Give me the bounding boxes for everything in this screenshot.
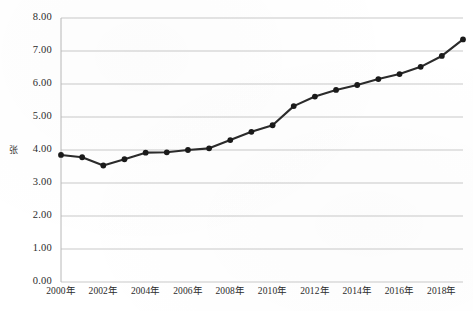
x-tick-label: 2002年 bbox=[89, 283, 119, 297]
data-point bbox=[206, 145, 212, 151]
data-line bbox=[61, 39, 463, 165]
data-point bbox=[79, 154, 85, 160]
data-point bbox=[397, 71, 403, 77]
x-tick-label: 2008年 bbox=[216, 283, 246, 297]
data-point bbox=[375, 76, 381, 82]
data-point bbox=[227, 137, 233, 143]
data-point bbox=[164, 149, 170, 155]
data-point bbox=[291, 103, 297, 109]
data-point bbox=[100, 163, 106, 169]
data-point bbox=[312, 94, 318, 100]
data-point bbox=[143, 150, 149, 156]
x-tick-label: 2004年 bbox=[131, 283, 161, 297]
data-point bbox=[58, 152, 64, 158]
data-point bbox=[122, 156, 128, 162]
x-tick-label: 2006年 bbox=[173, 283, 203, 297]
data-point bbox=[354, 82, 360, 88]
gridlines bbox=[61, 18, 463, 282]
data-markers bbox=[58, 37, 466, 169]
x-tick-label: 2018年 bbox=[427, 283, 457, 297]
x-tick-label: 2012年 bbox=[300, 283, 330, 297]
data-point bbox=[418, 64, 424, 70]
x-axis-tick-labels: 2000年2002年2004年2006年2008年2010年2012年2014年… bbox=[0, 283, 473, 305]
data-point bbox=[270, 122, 276, 128]
x-tick-label: 2014年 bbox=[342, 283, 372, 297]
x-tick-label: 2010年 bbox=[258, 283, 288, 297]
data-point bbox=[249, 129, 255, 135]
x-tick-label: 2000年 bbox=[46, 283, 76, 297]
data-point bbox=[460, 37, 466, 43]
plot-area bbox=[0, 0, 473, 311]
data-point bbox=[439, 53, 445, 59]
x-tick-label: 2016年 bbox=[385, 283, 415, 297]
line-chart: 张 0.001.002.003.004.005.006.007.008.00 2… bbox=[0, 0, 473, 311]
data-point bbox=[333, 87, 339, 93]
data-point bbox=[185, 147, 191, 153]
